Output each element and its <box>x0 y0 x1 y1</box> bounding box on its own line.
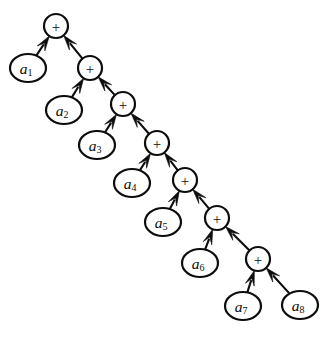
leaf-node-subscript: 4 <box>131 182 136 193</box>
leaf-node[interactable]: a8 <box>282 291 318 319</box>
operator-node-label: + <box>119 97 127 113</box>
operator-node-label: + <box>52 19 60 35</box>
leaf-node[interactable]: a5 <box>145 208 181 236</box>
operator-node-label: + <box>213 211 221 227</box>
edge-line <box>274 276 290 294</box>
operator-node[interactable]: + <box>111 92 135 116</box>
edge-arrowhead <box>72 78 84 93</box>
leaf-node[interactable]: a7 <box>225 292 261 320</box>
edge-arrowhead <box>164 153 177 168</box>
edge-line <box>105 123 111 132</box>
operator-node-label: + <box>181 173 189 189</box>
edge-line <box>200 198 209 209</box>
operator-node[interactable]: + <box>173 168 197 192</box>
leaf-node[interactable]: a1 <box>10 54 46 82</box>
operator-node[interactable]: + <box>205 206 229 230</box>
edge-line <box>171 161 178 170</box>
edge-arrowhead <box>168 191 179 206</box>
edge-line <box>170 200 175 209</box>
edge-arrowhead <box>105 114 117 129</box>
operator-node-label: + <box>153 136 161 152</box>
leaf-node[interactable]: a6 <box>182 249 218 277</box>
edge-line <box>205 240 209 250</box>
edge-line <box>140 163 145 171</box>
leaf-node-subscript: 2 <box>63 109 68 120</box>
tree-canvas: +++++++a1a2a3a4a5a6a7a8 <box>0 0 331 339</box>
operator-node[interactable]: + <box>78 56 102 80</box>
leaf-node-subscript: 8 <box>299 304 304 315</box>
edge-line <box>106 85 115 95</box>
operator-node[interactable]: + <box>145 131 169 155</box>
leaf-node-subscript: 6 <box>199 262 204 273</box>
operator-node[interactable]: + <box>44 14 68 38</box>
edge-line <box>233 234 249 250</box>
leaf-node[interactable]: a3 <box>79 131 115 159</box>
expression-tree-diagram: +++++++a1a2a3a4a5a6a7a8 <box>0 0 331 339</box>
edge-line <box>36 45 43 55</box>
operator-node-label: + <box>254 252 262 268</box>
leaf-node-subscript: 3 <box>96 144 101 155</box>
leaf-node-subscript: 5 <box>162 221 167 232</box>
leaf-node[interactable]: a4 <box>114 169 150 197</box>
edge-arrowhead <box>37 36 49 51</box>
operator-node-label: + <box>86 61 94 77</box>
edge-arrowhead <box>139 153 151 168</box>
edge-line <box>70 44 82 59</box>
operator-node[interactable]: + <box>246 247 270 271</box>
leaf-node[interactable]: a2 <box>46 96 82 124</box>
edge-line <box>247 281 251 293</box>
leaf-node-subscript: 7 <box>242 305 247 316</box>
leaf-node-subscript: 1 <box>27 67 32 78</box>
edge-line <box>138 121 149 134</box>
edge-line <box>72 88 78 98</box>
